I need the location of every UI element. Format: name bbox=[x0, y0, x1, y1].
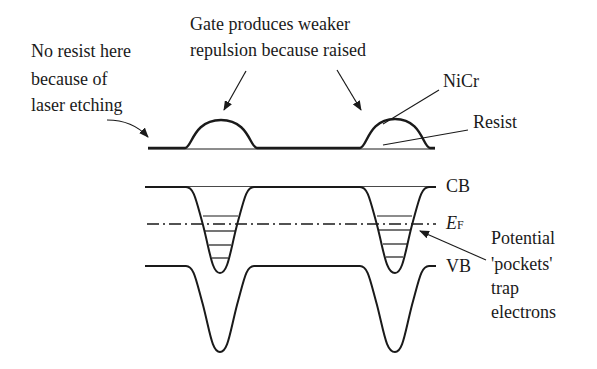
ef-subscript: F bbox=[457, 218, 464, 232]
no-resist-label-line2: because of bbox=[31, 69, 107, 90]
no-resist-arrow bbox=[107, 120, 148, 137]
pockets-label-line2: 'pockets' bbox=[491, 254, 552, 275]
nicr-leader bbox=[383, 90, 439, 124]
gate-arrow-left bbox=[224, 71, 246, 110]
pockets-label-line1: Potential bbox=[491, 228, 555, 249]
nicr-label: NiCr bbox=[443, 71, 479, 92]
no-resist-label-line3: laser etching bbox=[31, 95, 122, 116]
vb-label: VB bbox=[446, 256, 471, 277]
pockets-label-line4: electrons bbox=[491, 302, 556, 323]
ef-symbol: E bbox=[446, 213, 457, 233]
cb-label: CB bbox=[446, 176, 470, 197]
pockets-label-line3: trap bbox=[491, 278, 519, 299]
gate-arrow-right bbox=[337, 70, 361, 110]
gate-label-line1: Gate produces weaker bbox=[190, 14, 350, 35]
ef-label: EF bbox=[446, 213, 464, 236]
valence-band bbox=[145, 266, 436, 352]
gate-label-line2: repulsion because raised bbox=[190, 40, 366, 61]
no-resist-label-line1: No resist here bbox=[31, 41, 131, 62]
resist-label: Resist bbox=[473, 112, 517, 133]
pocket-levels-left bbox=[203, 216, 238, 258]
